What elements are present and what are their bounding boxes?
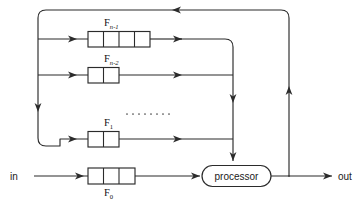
register-row-f-0 (88, 168, 200, 184)
svg-text:Fn-2: Fn-2 (104, 53, 119, 66)
processor-label: processor (215, 171, 260, 182)
register-label-f-n-2: Fn-2 (104, 53, 119, 66)
input-label: in (10, 171, 18, 182)
svg-text:Fn-1: Fn-1 (104, 17, 119, 30)
register-label-f-n-1: Fn-1 (104, 17, 119, 30)
left-distribution-bus-wire (35, 10, 52, 146)
top-feedback-return-wire (46, 7, 289, 176)
register-row-f-n-2 (38, 68, 233, 84)
register-label-subscript: 1 (110, 123, 113, 130)
svg-text:F0: F0 (104, 187, 114, 200)
register-row-f-n-1 (38, 32, 182, 48)
right-collector-bus-wire (176, 39, 236, 161)
diagram-canvas: Fn-1 Fn-2 (0, 0, 359, 207)
register-label-subscript: n-2 (110, 59, 119, 66)
register-label-f-1: F1 (104, 117, 113, 130)
register-label-f-0: F0 (104, 187, 114, 200)
ellipsis-dots (126, 113, 170, 115)
output-label: out (338, 171, 352, 182)
input-wire (34, 173, 88, 180)
feedback-pipeline-diagram: Fn-1 Fn-2 (0, 0, 359, 207)
register-label-subscript: n-1 (110, 23, 119, 30)
register-row-f-1 (52, 132, 233, 148)
svg-text:F1: F1 (104, 117, 113, 130)
register-label-subscript: 0 (110, 193, 114, 200)
output-wire (271, 86, 332, 179)
